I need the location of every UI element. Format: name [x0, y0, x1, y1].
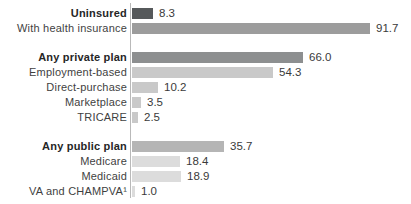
row-label: Direct-purchase — [0, 82, 127, 93]
value-label: 1.0 — [141, 186, 157, 197]
value-label: 18.9 — [187, 171, 209, 182]
bar — [132, 97, 141, 108]
row-label: With health insurance — [0, 23, 127, 34]
value-label: 91.7 — [376, 23, 398, 34]
row-label: Any public plan — [0, 141, 127, 152]
value-label: 18.4 — [186, 156, 208, 167]
value-label: 2.5 — [144, 112, 160, 123]
row-label: VA and CHAMPVA¹ — [0, 186, 127, 197]
row-label: Uninsured — [0, 8, 127, 19]
bar — [132, 112, 138, 123]
bar — [132, 141, 224, 152]
bar — [132, 23, 370, 34]
value-label: 35.7 — [230, 141, 252, 152]
bar — [132, 171, 181, 182]
row-label: Medicaid — [0, 171, 127, 182]
bar — [132, 186, 135, 197]
bar — [132, 8, 153, 19]
bar — [132, 82, 158, 93]
bar — [132, 156, 180, 167]
row-label: TRICARE — [0, 112, 127, 123]
bar — [132, 67, 273, 78]
row-label: Employment-based — [0, 67, 127, 78]
row-label: Medicare — [0, 156, 127, 167]
value-label: 66.0 — [309, 52, 331, 63]
value-label: 3.5 — [147, 97, 163, 108]
value-label: 8.3 — [159, 8, 175, 19]
bar — [132, 52, 303, 63]
value-label: 10.2 — [164, 82, 186, 93]
row-label: Any private plan — [0, 52, 127, 63]
insurance-coverage-bar-chart: Uninsured8.3With health insurance91.7Any… — [0, 0, 411, 204]
value-label: 54.3 — [279, 67, 301, 78]
axis-line — [130, 3, 131, 198]
row-label: Marketplace — [0, 97, 127, 108]
